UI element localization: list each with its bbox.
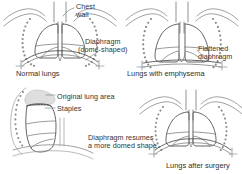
label-chest-wall-line2: wall [76,11,95,19]
label-staples: Staples [57,105,81,113]
label-diaphragm-resumes: Diaphragm resumes a more domed shape [88,134,157,151]
label-diaphragm-dome-line2: (dome-shaped) [78,46,127,54]
lung-surgery-diagram: Chest wall Diaphragm (dome-shaped) Flatt… [0,0,242,174]
caption-lungs-after-surgery: Lungs after surgery [166,162,230,171]
panel-normal-lungs [4,2,116,69]
label-staples-line1: Staples [57,105,81,113]
caption-lungs-with-emphysema: Lungs with emphysema [127,70,205,79]
label-flattened-line2: diaphragm [198,53,232,61]
label-diaphragm-dome-shaped: Diaphragm (dome-shaped) [78,38,127,55]
label-flattened-diaphragm: Flattened diaphragm [198,45,232,62]
label-chest-wall: Chest wall [76,3,95,20]
label-resumes-line2: a more domed shape [88,142,157,150]
label-original-lung-area-line1: Original lung area [57,93,115,101]
caption-normal-lungs: Normal lungs [16,70,60,79]
label-original-lung-area: Original lung area [57,93,115,101]
